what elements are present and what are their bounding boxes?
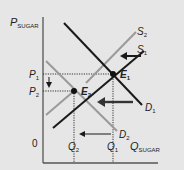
supply-demand-diagram: PSUGAR QSUGAR 0 P1 P2 Q2 Q1 S1 S2 D1 D2 … — [0, 0, 184, 170]
supply-curve-s2-lower — [46, 91, 74, 115]
quantity-shift-arrow — [79, 131, 111, 137]
d1-label: D1 — [145, 102, 156, 114]
equilibrium-e1-dot — [110, 71, 116, 77]
p2-label: P2 — [29, 86, 40, 98]
e2-label: E2 — [81, 86, 92, 98]
y-axis-label: PSUGAR — [10, 16, 39, 29]
p1-label: P1 — [29, 69, 40, 81]
s2-label: S2 — [137, 26, 148, 38]
q1-label: Q1 — [107, 141, 119, 153]
e1-label: E1 — [120, 69, 131, 81]
origin-label: 0 — [32, 138, 38, 149]
demand-shift-arrow — [97, 97, 133, 107]
s1-label: S1 — [137, 44, 148, 56]
q2-label: Q2 — [68, 141, 80, 153]
supply-curve-s1 — [53, 51, 144, 128]
equilibrium-e2-dot — [71, 88, 77, 94]
x-axis-label: QSUGAR — [130, 140, 161, 153]
price-drop-arrow — [46, 77, 52, 88]
d2-label: D2 — [119, 129, 130, 141]
